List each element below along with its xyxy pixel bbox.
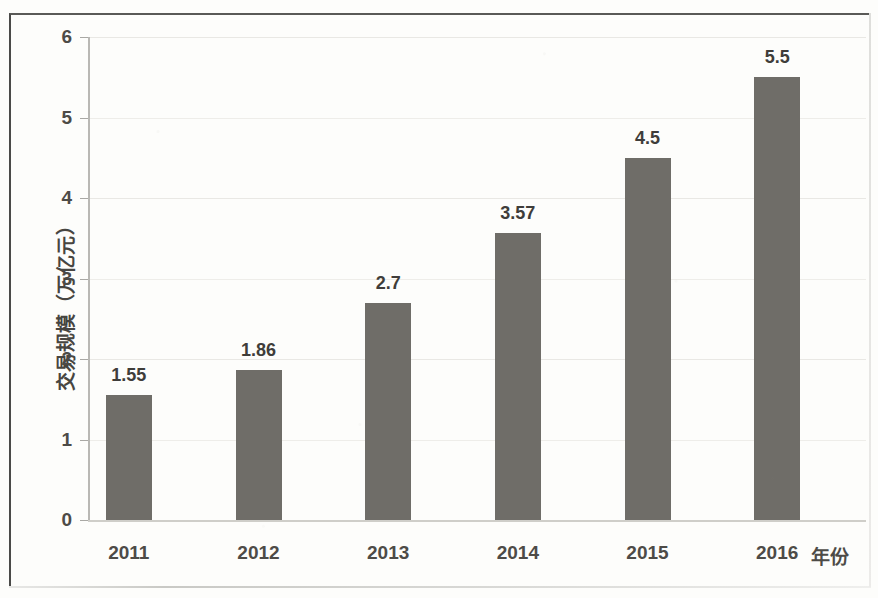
scanned-chart-page: 交易规模（万亿元） 0123456 1.551.862.73.574.55.5 … (0, 0, 878, 598)
gridline (88, 359, 866, 360)
x-tick-label: 2011 (108, 542, 149, 564)
bar-chart: 交易规模（万亿元） 0123456 1.551.862.73.574.55.5 … (0, 0, 878, 598)
y-tick-mark (80, 198, 88, 199)
y-tick-mark (80, 359, 88, 360)
y-tick-mark (80, 279, 88, 280)
plot-area: 0123456 1.551.862.73.574.55.5 2011201220… (88, 37, 866, 520)
bar[interactable] (106, 395, 152, 520)
x-tick-label: 2013 (367, 542, 409, 564)
bar-value-label: 1.55 (111, 365, 146, 386)
y-tick-label: 6 (61, 26, 72, 48)
bar-value-label: 1.86 (241, 340, 276, 361)
bar[interactable] (236, 370, 282, 520)
x-tick-label: 2015 (626, 542, 668, 564)
gridline (88, 279, 866, 280)
y-tick-label: 5 (61, 107, 72, 129)
bar[interactable] (625, 158, 671, 520)
x-tick-label: 2012 (237, 542, 279, 564)
gridline (88, 118, 866, 119)
gridline (88, 440, 866, 441)
y-tick-label: 0 (61, 509, 72, 531)
gridline (88, 37, 866, 38)
y-axis-line (88, 37, 90, 520)
bar-value-label: 4.5 (635, 128, 660, 149)
bar[interactable] (365, 303, 411, 520)
bar[interactable] (495, 233, 541, 520)
bar-value-label: 3.57 (500, 203, 535, 224)
y-tick-mark (80, 37, 88, 38)
bar-value-label: 2.7 (376, 273, 401, 294)
bar-value-label: 5.5 (765, 47, 790, 68)
x-axis-unit-label: 年份 (811, 542, 849, 569)
y-tick-mark (80, 440, 88, 441)
y-tick-label: 1 (61, 429, 72, 451)
x-tick-label: 2016 (756, 542, 798, 564)
gridline (88, 198, 866, 199)
x-axis-line (88, 520, 866, 522)
y-tick-label: 4 (61, 187, 72, 209)
y-tick-label: 2 (61, 348, 72, 370)
x-tick-label: 2014 (497, 542, 539, 564)
y-tick-label: 3 (61, 268, 72, 290)
y-tick-mark (80, 118, 88, 119)
y-tick-mark (80, 520, 88, 521)
bar[interactable] (754, 77, 800, 520)
